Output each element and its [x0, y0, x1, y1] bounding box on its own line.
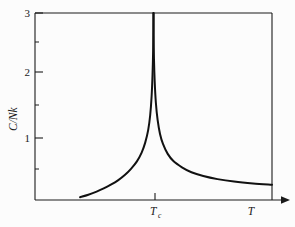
plot-frame — [35, 13, 290, 204]
y-tick-label-2: 2 — [25, 66, 31, 78]
y-tick-label-1: 1 — [25, 132, 31, 144]
specific-heat-chart: 3 2 1 C/Nk T c T — [0, 0, 295, 227]
curve-left-branch — [80, 13, 153, 197]
x-tick-label-critical-main: T — [150, 205, 158, 217]
y-tick-label-3: 3 — [25, 7, 31, 19]
x-axis-title: T — [248, 205, 256, 217]
x-tick-label-critical-sub: c — [158, 211, 162, 220]
curve-right-branch — [154, 13, 273, 185]
y-axis-title-denominator: Nk — [7, 106, 19, 121]
curve-group — [80, 13, 272, 197]
figure-container: 3 2 1 C/Nk T c T — [0, 0, 295, 227]
x-axis-arrow-icon — [281, 196, 290, 204]
y-axis-title: C/Nk — [7, 106, 19, 131]
x-tick-label-critical: T c — [150, 205, 162, 220]
svg-text:C/Nk: C/Nk — [7, 106, 19, 131]
y-axis-ticks — [35, 13, 43, 169]
